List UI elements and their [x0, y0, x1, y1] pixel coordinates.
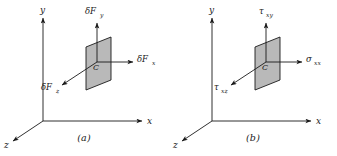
vector-label-delta-F-x-base: δF: [137, 54, 149, 64]
vector-label-delta-F-x: δF x: [137, 54, 156, 66]
panel-caption-b: (b): [169, 132, 337, 143]
vector-label-delta-F-x-sub: x: [152, 59, 156, 66]
vector-label-delta-F-y: δF y: [85, 6, 104, 19]
vector-label-sigma-xx-base: σ: [306, 54, 312, 64]
vector-label-tau-xz-base: τ: [214, 82, 219, 92]
vector-label-tau-xz-sub: xz: [221, 87, 228, 94]
panel-caption-a: (a): [0, 132, 168, 143]
center-label-b: C: [262, 63, 268, 72]
center-label-a: C: [93, 63, 99, 72]
vector-label-delta-F-z-base: δF: [41, 82, 53, 92]
vector-label-tau-xz: τ xz: [214, 82, 228, 94]
vector-label-tau-xy: τ xy: [259, 6, 273, 19]
panel-a: C y x z δF y δF x δF z (a): [0, 0, 168, 156]
axis-label-y-b: y: [208, 5, 215, 15]
axis-label-x-b: x: [316, 116, 321, 126]
vector-label-sigma-xx-sub: xx: [314, 59, 321, 66]
vector-label-delta-F-z: δF z: [41, 82, 60, 94]
vector-label-sigma-xx: σ xx: [306, 54, 321, 66]
axis-label-x-a: x: [147, 116, 152, 126]
figure-root: C y x z δF y δF x δF z (a): [0, 0, 337, 156]
vector-label-delta-F-y-base: δF: [85, 6, 97, 16]
vector-label-tau-xy-base: τ: [259, 6, 264, 16]
panel-b: C y x z τ xy σ xx τ xz (b): [169, 0, 337, 156]
vector-label-delta-F-y-sub: y: [99, 11, 104, 19]
vector-label-delta-F-z-sub: z: [55, 87, 60, 94]
vector-label-tau-xy-sub: xy: [266, 11, 273, 19]
axis-label-y-a: y: [39, 5, 46, 15]
